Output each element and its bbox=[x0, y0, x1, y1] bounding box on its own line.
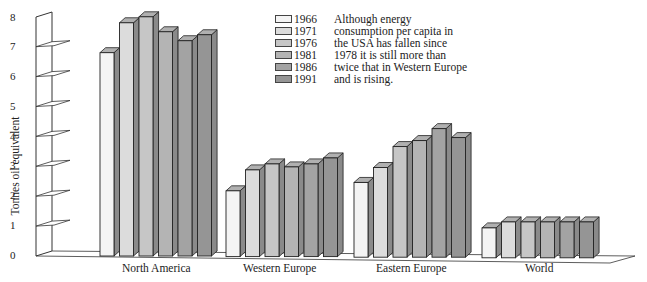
legend-swatch bbox=[275, 15, 292, 23]
legend-label: 1991 bbox=[294, 73, 317, 85]
y-tick: 5 bbox=[10, 100, 16, 112]
chart-canvas bbox=[0, 0, 647, 282]
legend-item-1971: 1971 bbox=[275, 25, 317, 37]
annotation-line: 1978 it is still more than bbox=[334, 49, 534, 61]
legend-item-1986: 1986 bbox=[275, 61, 317, 73]
legend-swatch bbox=[275, 51, 292, 59]
legend-label: 1981 bbox=[294, 49, 317, 61]
legend-label: 1971 bbox=[294, 25, 317, 37]
bar-1991 bbox=[198, 35, 212, 256]
annotation-line: twice that in Western Europe bbox=[334, 61, 534, 73]
bar-1971 bbox=[246, 170, 260, 257]
category-label-world: World bbox=[525, 262, 553, 274]
y-tick: 4 bbox=[10, 130, 16, 142]
bar-1966 bbox=[354, 182, 368, 257]
legend-swatch bbox=[275, 63, 292, 71]
bar-1986 bbox=[178, 41, 192, 256]
bar-1976 bbox=[265, 164, 279, 257]
bar-1966 bbox=[482, 228, 496, 258]
legend-swatch bbox=[275, 27, 292, 35]
bar-1986 bbox=[560, 222, 574, 258]
y-tick: 1 bbox=[10, 219, 16, 231]
y-tick: 6 bbox=[10, 70, 16, 82]
legend-label: 1986 bbox=[294, 61, 317, 73]
y-tick: 8 bbox=[10, 11, 16, 23]
y-tick: 3 bbox=[10, 159, 16, 171]
category-label-north-america: North America bbox=[122, 262, 191, 274]
bar-1981 bbox=[413, 141, 427, 258]
y-tick: 7 bbox=[10, 40, 16, 52]
bar-1991 bbox=[452, 138, 466, 258]
bar-1981 bbox=[159, 32, 173, 256]
bar-1986 bbox=[304, 164, 318, 257]
bar-1981 bbox=[541, 222, 555, 258]
legend-label: 1976 bbox=[294, 37, 317, 49]
legend-swatch bbox=[275, 75, 292, 83]
category-label-western-europe: Western Europe bbox=[243, 262, 316, 274]
bar-1981 bbox=[285, 167, 299, 257]
bar-1971 bbox=[120, 23, 134, 256]
bar-1991 bbox=[580, 222, 594, 258]
bar-1971 bbox=[502, 222, 516, 258]
bar-1976 bbox=[521, 222, 535, 258]
bar-1966 bbox=[226, 191, 240, 257]
legend: 1966 1971 1976 1981 1986 1991 bbox=[275, 13, 317, 85]
annotation-line: and is rising. bbox=[334, 73, 534, 85]
annotation-text: Although energy consumption per capita i… bbox=[334, 13, 534, 85]
legend-item-1976: 1976 bbox=[275, 37, 317, 49]
bar-1966 bbox=[100, 53, 114, 256]
y-tick: 2 bbox=[10, 189, 16, 201]
bar-1991 bbox=[324, 158, 338, 257]
category-label-eastern-europe: Eastern Europe bbox=[376, 262, 447, 274]
legend-item-1991: 1991 bbox=[275, 73, 317, 85]
bar-1971 bbox=[374, 168, 388, 258]
legend-label: 1966 bbox=[294, 13, 317, 25]
annotation-line: consumption per capita in bbox=[334, 25, 534, 37]
bar-1976 bbox=[139, 17, 153, 256]
legend-swatch bbox=[275, 39, 292, 47]
legend-item-1966: 1966 bbox=[275, 13, 317, 25]
annotation-line: the USA has fallen since bbox=[334, 37, 534, 49]
bar-1976 bbox=[393, 147, 407, 258]
bar-1986 bbox=[432, 129, 446, 258]
legend-item-1981: 1981 bbox=[275, 49, 317, 61]
annotation-line: Although energy bbox=[334, 13, 534, 25]
y-tick: 0 bbox=[10, 249, 16, 261]
